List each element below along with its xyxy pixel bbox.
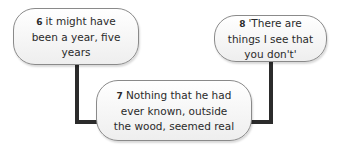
- node-7-number: 7: [117, 91, 123, 101]
- connector-8-vertical: [269, 60, 273, 124]
- node-8: 8'There are things I see that you don't': [214, 15, 327, 62]
- node-7: 7Nothing that he had ever known, outside…: [96, 80, 252, 141]
- node-6: 6it might have been a year, five years: [13, 8, 139, 65]
- node-8-number: 8: [239, 19, 245, 29]
- connector-6-vertical: [75, 64, 79, 124]
- node-6-content: 6it might have been a year, five years: [22, 14, 130, 60]
- node-7-content: 7Nothing that he had ever known, outside…: [111, 88, 237, 134]
- node-6-number: 6: [36, 17, 42, 27]
- node-7-text: Nothing that he had ever known, outside …: [114, 89, 234, 132]
- node-6-text: it might have been a year, five years: [32, 15, 121, 58]
- node-8-content: 8'There are things I see that you don't': [223, 16, 318, 62]
